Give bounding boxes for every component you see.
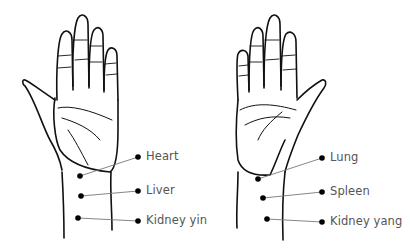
right-pulse-points <box>255 155 325 225</box>
label-heart: Heart <box>146 151 179 163</box>
label-liver: Liver <box>146 185 175 197</box>
label-kidney-yin: Kidney yin <box>146 215 207 227</box>
left-pulse-points <box>75 154 141 224</box>
label-kidney-yang: Kidney yang <box>330 216 402 228</box>
label-spleen: Spleen <box>330 186 370 198</box>
label-lung: Lung <box>330 152 358 164</box>
right-hand-drawing <box>236 15 326 240</box>
left-hand-drawing <box>23 15 118 238</box>
